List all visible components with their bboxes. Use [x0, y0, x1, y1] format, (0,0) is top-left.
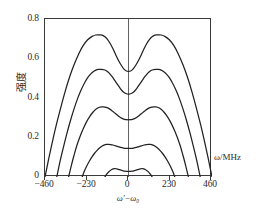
y-tick-label-3: 0.6	[27, 53, 39, 63]
x-tick-label-3: 230	[152, 179, 186, 189]
x-axis-unit-label: ω/MHz	[214, 152, 241, 162]
x-tick-label-0: −460	[25, 179, 63, 189]
x-axis-title: ω'−ω₀	[0, 194, 256, 203]
curve-group	[45, 19, 212, 177]
y-tick-label-4: 0.8	[27, 14, 39, 24]
x-tick-label-1: −230	[67, 179, 105, 189]
figure-container: 强度 0.8 0.6 0.4 0.2 0 −460 −230 0 230 460…	[0, 0, 256, 215]
y-tick-label-2: 0.4	[27, 93, 39, 103]
plot-area	[44, 18, 211, 176]
y-axis-title: 强度	[16, 55, 27, 109]
x-tick-label-4: 460	[193, 179, 227, 189]
y-tick-label-1: 0.2	[27, 132, 39, 142]
x-tick-label-2: 0	[112, 179, 142, 189]
